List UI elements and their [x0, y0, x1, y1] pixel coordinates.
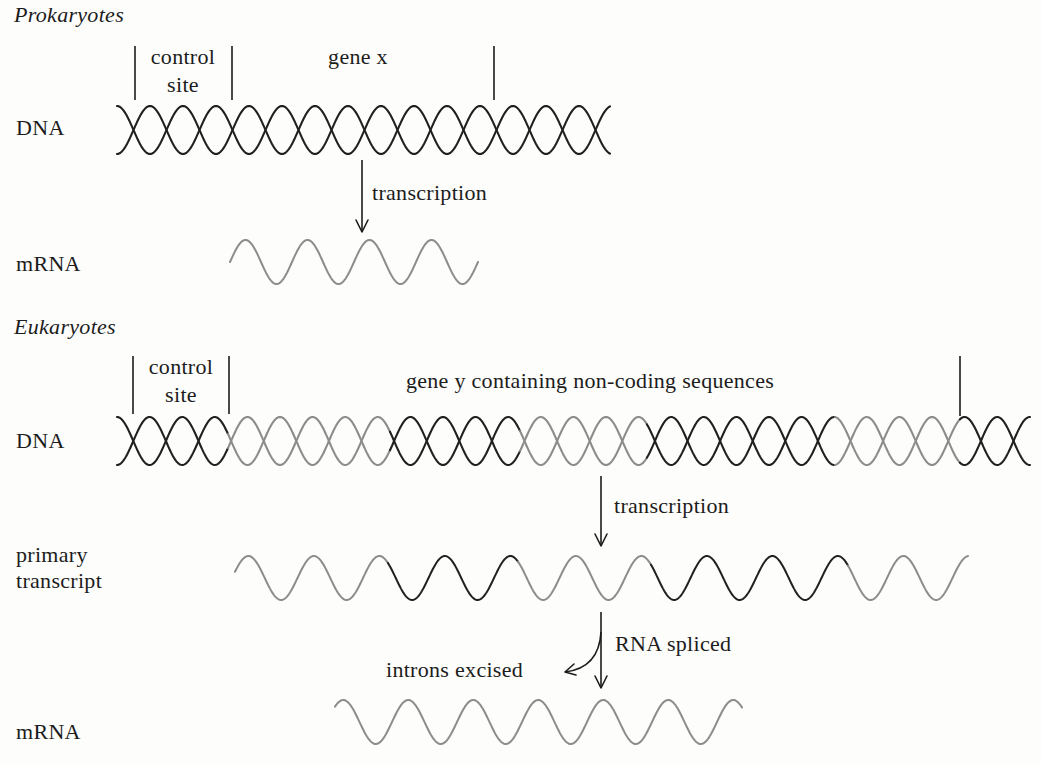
prokaryote-dna-double-helix [117, 106, 610, 154]
primary-transcript-label-line1: primary [16, 544, 88, 566]
prokaryote-transcription-arrow [356, 160, 368, 232]
eukaryote-dna-double-helix [117, 417, 1030, 465]
gene-expression-diagram: Prokaryotes control site gene x DNA tran… [0, 0, 1041, 765]
prokaryote-mrna-label: mRNA [16, 253, 81, 275]
eukaryote-dna-label: DNA [16, 430, 65, 452]
eukaryote-mrna-label: mRNA [16, 721, 81, 743]
prokaryote-control-site-label-line2: site [167, 74, 199, 96]
eukaryote-primary-transcript-strand [235, 556, 968, 600]
eukaryotes-heading: Eukaryotes [14, 316, 116, 338]
prokaryotes-heading: Prokaryotes [14, 4, 124, 26]
prokaryote-dna-label: DNA [16, 117, 65, 139]
introns-excised-label: introns excised [386, 659, 523, 681]
gene-y-label: gene y containing non-coding sequences [406, 370, 774, 392]
eukaryote-control-site-label-line2: site [165, 384, 197, 406]
rna-spliced-label: RNA spliced [615, 633, 731, 655]
eukaryote-control-site-label-line1: control [149, 356, 213, 378]
primary-transcript-label-line2: transcript [16, 570, 102, 592]
rna-splicing-arrow [565, 612, 607, 688]
gene-x-label: gene x [328, 46, 388, 68]
eukaryote-mrna-strand [335, 700, 742, 744]
prokaryote-mrna-strand [230, 240, 478, 284]
eukaryote-transcription-arrow [595, 476, 607, 546]
eukaryote-transcription-label: transcription [614, 495, 729, 517]
prokaryote-transcription-label: transcription [372, 182, 487, 204]
prokaryote-control-site-label-line1: control [151, 46, 215, 68]
